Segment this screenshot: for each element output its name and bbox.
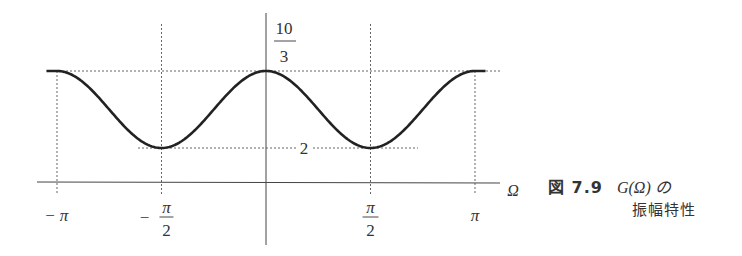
y-level-max-num: 10 xyxy=(276,19,293,38)
x-tick-label-den-2: 2 xyxy=(366,221,375,240)
y-level-min-label: 2 xyxy=(300,139,309,158)
x-tick-label-num-1: π xyxy=(162,198,171,217)
figure-caption: 図 7.9G(Ω) の 振幅特性 xyxy=(548,177,696,221)
caption-description: 振幅特性 xyxy=(548,199,696,221)
caption-function: G(Ω) の xyxy=(617,179,671,196)
figure-number: 図 7.9 xyxy=(548,178,603,197)
x-axis xyxy=(37,182,500,183)
x-tick-label-0: π xyxy=(60,206,69,225)
x-tick-sign-1: − xyxy=(140,208,150,227)
x-tick-sign-0: − xyxy=(45,206,55,225)
x-tick-label-den-1: 2 xyxy=(162,221,171,240)
y-level-max-den: 3 xyxy=(280,47,289,66)
x-tick-label-3: π xyxy=(471,206,480,225)
x-tick-label-num-2: π xyxy=(366,198,375,217)
x-axis-label: Ω xyxy=(507,182,519,199)
